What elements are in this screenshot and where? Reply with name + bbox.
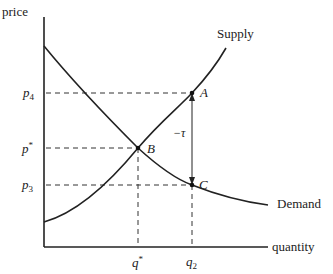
y-axis-label: price bbox=[2, 4, 28, 19]
supply-curve bbox=[44, 48, 226, 222]
p4-label: p4 bbox=[22, 85, 35, 102]
tax-wedge-label: −τ bbox=[173, 126, 186, 140]
qstar-label: q* bbox=[132, 254, 144, 270]
p3-label: p3 bbox=[21, 177, 34, 194]
point-c-marker bbox=[190, 183, 195, 188]
demand-label: Demand bbox=[277, 196, 322, 211]
point-b-label: B bbox=[147, 141, 155, 156]
point-b-marker bbox=[136, 146, 141, 151]
supply-label: Supply bbox=[217, 26, 254, 41]
point-c-label: C bbox=[199, 177, 208, 192]
supply-demand-diagram: price quantity Supply Demand p4 p* p3 q*… bbox=[0, 0, 333, 274]
point-a-label: A bbox=[199, 85, 208, 100]
pstar-label: p* bbox=[21, 140, 34, 156]
x-axis-label: quantity bbox=[272, 239, 315, 254]
point-a-marker bbox=[190, 91, 195, 96]
q2-label: q2 bbox=[186, 254, 197, 271]
demand-curve bbox=[44, 46, 268, 205]
